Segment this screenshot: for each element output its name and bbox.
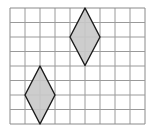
rhombus-upper [70,8,100,66]
rhombus-lower [25,66,55,124]
grid-diagram [0,0,146,127]
